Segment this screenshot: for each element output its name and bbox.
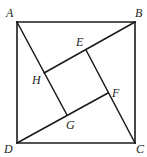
geometry-diagram: A B C D E F G H <box>0 0 147 157</box>
label-h: H <box>31 73 42 87</box>
segment-ag <box>17 22 67 115</box>
label-b: B <box>135 6 143 20</box>
label-d: D <box>3 142 13 156</box>
label-a: A <box>5 6 14 20</box>
segment-df <box>17 93 108 143</box>
segment-bh <box>44 22 135 73</box>
label-c: C <box>136 142 145 156</box>
segment-ce <box>86 50 135 143</box>
label-f: F <box>111 86 120 100</box>
label-g: G <box>66 118 75 132</box>
label-e: E <box>75 35 84 49</box>
